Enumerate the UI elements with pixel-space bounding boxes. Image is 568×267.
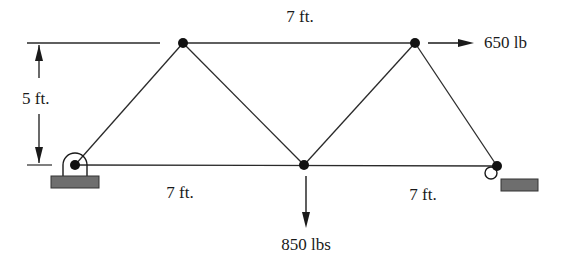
member-ab bbox=[75, 43, 183, 165]
member-bottom-chord bbox=[75, 165, 497, 166]
node-e bbox=[492, 161, 502, 171]
bottom-right-span-label: 7 ft. bbox=[409, 185, 436, 204]
height-label: 5 ft. bbox=[22, 89, 49, 108]
node-a bbox=[70, 160, 80, 170]
height-arrowhead-down-icon bbox=[35, 147, 43, 163]
horizontal-load-arrowhead-icon bbox=[458, 39, 474, 47]
pin-support bbox=[51, 153, 99, 188]
truss-members bbox=[75, 43, 497, 166]
roller-support bbox=[485, 167, 538, 191]
top-span-label: 7 ft. bbox=[286, 7, 313, 26]
node-c bbox=[299, 160, 309, 170]
node-d bbox=[410, 38, 420, 48]
bottom-left-span-label: 7 ft. bbox=[166, 183, 193, 202]
member-de bbox=[415, 43, 497, 166]
member-bc bbox=[183, 43, 304, 165]
horizontal-load-label: 650 lb bbox=[484, 33, 527, 52]
vertical-load-arrowhead-icon bbox=[302, 212, 310, 228]
truss-diagram: 7 ft. 5 ft. 7 ft. 7 ft. 650 lb 850 lbs bbox=[0, 0, 568, 267]
member-cd bbox=[304, 43, 415, 165]
node-b bbox=[178, 38, 188, 48]
height-arrowhead-up-icon bbox=[35, 45, 43, 61]
vertical-load-label: 850 lbs bbox=[281, 235, 331, 254]
